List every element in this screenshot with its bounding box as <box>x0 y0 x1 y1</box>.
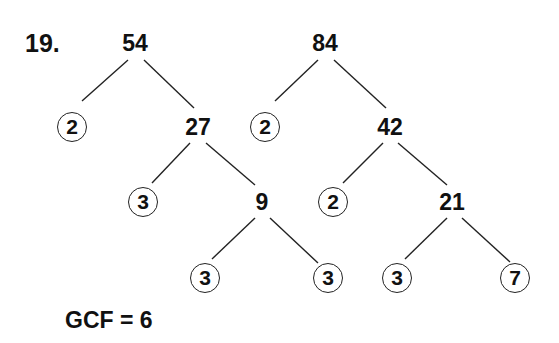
circled-prime-factor: 7 <box>500 263 530 293</box>
tree-node-54: 54 <box>122 32 148 55</box>
circled-prime-factor: 2 <box>250 112 280 142</box>
circled-prime-factor: 3 <box>313 263 343 293</box>
tree-node-84: 84 <box>312 32 338 55</box>
tree-node-42: 42 <box>377 116 403 139</box>
tree-node-9: 9 <box>256 191 269 214</box>
tree-node-21: 21 <box>439 191 465 214</box>
tree-branches <box>0 0 559 343</box>
circled-prime-factor: 3 <box>382 263 412 293</box>
tree-node-27: 27 <box>185 116 211 139</box>
circled-prime-factor: 3 <box>128 187 158 217</box>
circled-prime-factor: 3 <box>190 263 220 293</box>
circled-prime-factor: 2 <box>318 187 348 217</box>
gcf-answer: GCF = 6 <box>65 307 153 334</box>
circled-prime-factor: 2 <box>57 112 87 142</box>
